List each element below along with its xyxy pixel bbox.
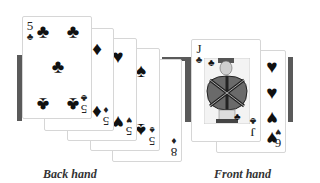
club-icon: ♣ (48, 57, 68, 76)
playing-card-5-clubs[interactable]: 5♣ ♣ ♣ ♣ ♣ ♣ 5♣ (22, 16, 92, 119)
card-index: 5♦ (101, 105, 111, 127)
back-hand-label: Back hand (43, 167, 97, 182)
heart-icon: ♥ (262, 83, 282, 102)
card-index: 5♠ (147, 125, 157, 147)
card-index: J♣ (248, 116, 258, 138)
club-icon: ♣ (33, 95, 53, 114)
jack-face-illustration: ♣ ♣ (204, 58, 250, 124)
club-icon: ♣ (63, 22, 83, 41)
heart-icon: ♥ (262, 57, 282, 76)
card-index: J♣ (194, 43, 204, 65)
card-index: 6♥ (273, 127, 283, 149)
card-index: 5♥ (124, 115, 134, 137)
svg-text:♣: ♣ (208, 58, 215, 68)
front-hand-bracket-right (288, 57, 293, 122)
card-index: 5♣ (79, 93, 89, 115)
svg-text:♣: ♣ (234, 111, 241, 122)
heart-icon: ♥ (262, 109, 282, 128)
playing-card-jack-clubs[interactable]: J♣ ♣ ♣ J♣ (191, 39, 261, 142)
front-hand-label: Front hand (214, 167, 271, 182)
club-icon: ♣ (33, 22, 53, 41)
card-index: 8♦ (169, 136, 179, 158)
